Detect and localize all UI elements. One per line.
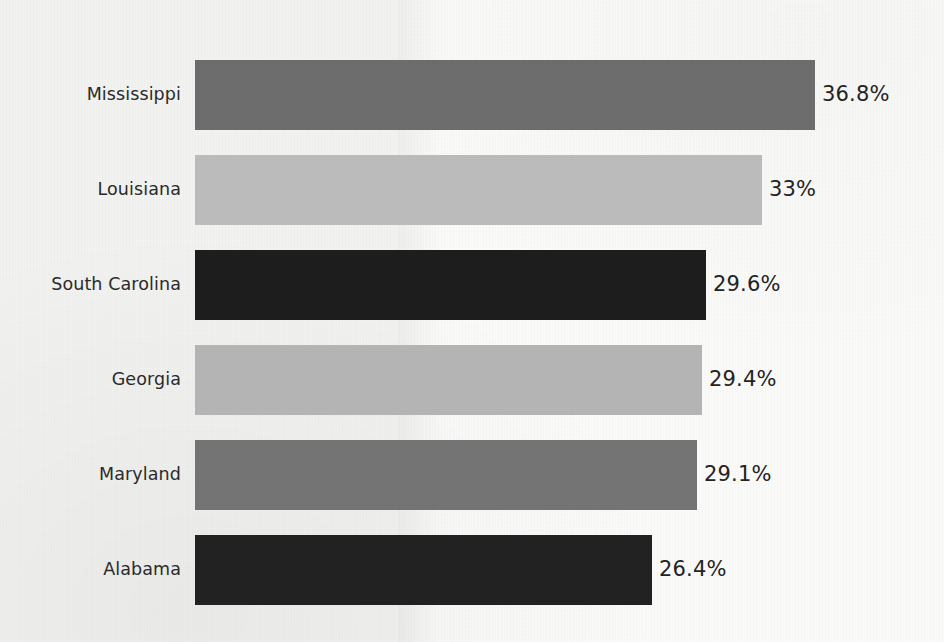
- bar: [195, 250, 706, 320]
- bar-row: Alabama26.4%: [0, 535, 944, 605]
- category-label: Georgia: [0, 369, 181, 389]
- bar: [195, 60, 815, 130]
- value-label: 29.1%: [704, 462, 772, 486]
- category-label: Maryland: [0, 464, 181, 484]
- bar: [195, 155, 762, 225]
- value-label: 29.4%: [709, 367, 777, 391]
- category-label: Mississippi: [0, 84, 181, 104]
- category-label: South Carolina: [0, 274, 181, 294]
- value-label: 26.4%: [659, 557, 727, 581]
- bar-chart: Mississippi36.8%Louisiana33%South Caroli…: [0, 0, 944, 642]
- bar: [195, 345, 702, 415]
- plot-area: Mississippi36.8%Louisiana33%South Caroli…: [0, 0, 944, 642]
- category-label: Louisiana: [0, 179, 181, 199]
- bar-row: Mississippi36.8%: [0, 60, 944, 130]
- bar-row: South Carolina29.6%: [0, 250, 944, 320]
- bar-row: Maryland29.1%: [0, 440, 944, 510]
- category-label: Alabama: [0, 559, 181, 579]
- bar-row: Louisiana33%: [0, 155, 944, 225]
- value-label: 33%: [769, 177, 816, 201]
- value-label: 29.6%: [713, 272, 781, 296]
- bar: [195, 535, 652, 605]
- bar-row: Georgia29.4%: [0, 345, 944, 415]
- value-label: 36.8%: [822, 82, 890, 106]
- bar: [195, 440, 697, 510]
